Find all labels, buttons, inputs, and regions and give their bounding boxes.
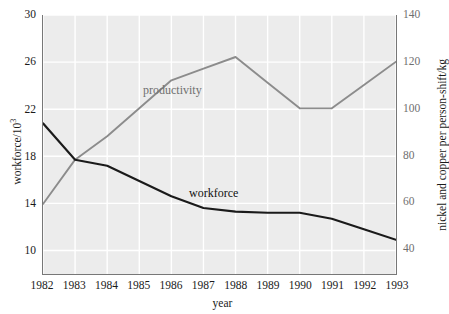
x-axis-tick-label: 1983 [63,280,86,292]
x-axis-tick-label: 1987 [192,280,215,292]
left-axis-tick-label: 26 [25,57,37,69]
left-axis-title: workforce/103 [10,87,23,217]
productivity-series-label: productivity [143,84,202,96]
right-axis-tick-label: 80 [403,150,415,162]
x-axis-tick-label: 1989 [256,280,279,292]
right-axis-tick-label: 40 [403,243,415,255]
x-axis-title: year [0,298,445,310]
left-axis-tick-label: 10 [25,246,37,258]
x-axis-tick-label: 1986 [160,280,183,292]
x-axis-tick-label: 1990 [289,280,312,292]
horizontal-gridlines [43,15,396,250]
x-axis-tick-label: 1984 [95,280,118,292]
x-axis-tick-label: 1988 [224,280,247,292]
left-axis-tick-label: 22 [25,104,37,116]
productivity-line [43,57,396,204]
left-axis-tick-label: 18 [25,151,37,163]
right-axis-tick-label: 120 [403,56,420,68]
workforce-series-label: workforce [189,187,238,199]
right-axis-tick-label: 100 [403,103,420,115]
right-axis-ticks: 406080100120140 [403,0,431,314]
x-axis-tick-label: 1985 [127,280,150,292]
plot-canvas [43,15,396,274]
workforce-line [43,123,396,240]
left-axis-title-exponent: 3 [9,119,18,123]
x-axis-tick-label: 1982 [31,280,54,292]
plot-area: productivity workforce [42,15,397,275]
right-axis-tick-label: 140 [403,9,420,21]
right-axis-title: nickel and copper per person-shift/kg [437,71,449,231]
x-axis-tick-label: 1993 [386,280,409,292]
x-axis-tick-label: 1992 [353,280,376,292]
x-axis-tick-label: 1991 [321,280,344,292]
left-axis-title-base: workforce/10 [11,123,23,185]
left-axis-tick-label: 30 [25,9,37,21]
left-axis-tick-label: 14 [25,198,37,210]
right-axis-tick-label: 60 [403,197,415,209]
